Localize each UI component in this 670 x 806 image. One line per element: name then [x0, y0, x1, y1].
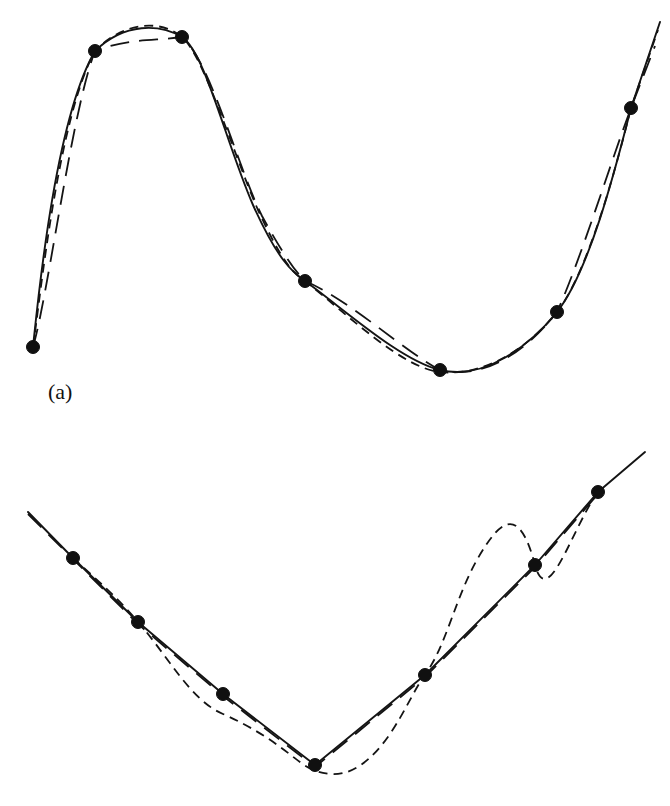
knot-point	[529, 559, 542, 572]
knot-point	[625, 102, 638, 115]
figure-root: (a) (b)	[0, 0, 670, 806]
panel-b-plot	[0, 430, 670, 806]
knot-point	[551, 306, 564, 319]
knot-point	[176, 31, 189, 44]
panel-a: (a)	[0, 0, 670, 430]
panel-b-knot-group	[67, 486, 605, 772]
knot-point	[67, 552, 80, 565]
panel-b: (b)	[0, 430, 670, 806]
panel-b-curves	[28, 452, 645, 774]
knot-point	[217, 688, 230, 701]
knot-point	[27, 341, 40, 354]
knot-point	[434, 364, 447, 377]
knot-point	[299, 275, 312, 288]
knot-point	[89, 45, 102, 58]
panel-a-plot	[0, 0, 670, 430]
curve-short-dashed-a	[33, 26, 658, 373]
panel-a-curves	[33, 22, 660, 373]
knot-point	[132, 616, 145, 629]
knot-point	[419, 669, 432, 682]
curve-solid-b	[28, 452, 645, 765]
curve-solid-a	[33, 22, 660, 372]
curve-long-dashed-a	[33, 37, 655, 372]
curve-long-dashed-b	[28, 494, 598, 767]
knot-point	[592, 486, 605, 499]
panel-label-a: (a)	[48, 381, 72, 403]
knot-point	[309, 759, 322, 772]
